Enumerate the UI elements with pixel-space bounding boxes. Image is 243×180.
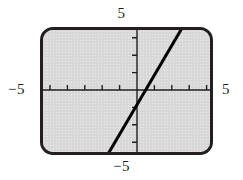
axes — [43, 30, 210, 152]
data-series — [94, 30, 184, 152]
graph-figure: 5 −5 5 −5 — [0, 0, 243, 180]
calculator-screen — [40, 27, 213, 155]
plot-area — [43, 30, 210, 152]
x-axis-min-label: −5 — [8, 82, 25, 97]
x-axis-max-label: 5 — [222, 82, 230, 97]
y-axis-max-label: 5 — [0, 6, 243, 21]
y-axis-min-label: −5 — [0, 159, 243, 174]
